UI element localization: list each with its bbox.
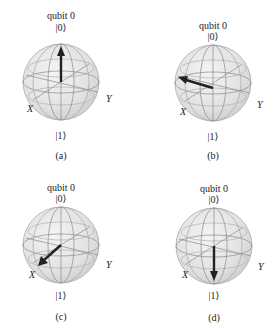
panel-caption: (c) xyxy=(55,312,66,322)
ket-zero-label: |0⟩ xyxy=(56,23,67,33)
bloch-sphere-a xyxy=(0,0,138,164)
ket-zero-label: |0⟩ xyxy=(209,195,220,205)
ket-one-label: |1⟩ xyxy=(209,291,220,301)
panel-title: qubit 0 xyxy=(200,184,228,194)
panel-title: qubit 0 xyxy=(47,183,75,193)
ket-zero-label: |0⟩ xyxy=(208,32,219,42)
y-axis-label: Y xyxy=(257,100,263,110)
panel-caption: (d) xyxy=(208,313,220,323)
bloch-panel-b: qubit 0 |0⟩ |1⟩ X Y (b) xyxy=(138,0,276,164)
bloch-panel-c: qubit 0 |0⟩ |1⟩ X Y (c) xyxy=(0,165,138,329)
sphere-wireframe xyxy=(175,45,251,121)
panel-caption: (a) xyxy=(55,151,66,161)
x-axis-label: X xyxy=(29,270,35,280)
panel-caption: (b) xyxy=(207,151,219,161)
ket-one-label: |1⟩ xyxy=(208,132,219,142)
ket-zero-label: |0⟩ xyxy=(56,194,67,204)
panel-title: qubit 0 xyxy=(199,21,227,31)
y-axis-label: Y xyxy=(106,260,112,270)
panel-title: qubit 0 xyxy=(47,11,75,21)
bloch-panel-d: qubit 0 |0⟩ |1⟩ X Y (d) xyxy=(138,165,276,329)
x-axis-label: X xyxy=(27,104,33,114)
ket-one-label: |1⟩ xyxy=(56,291,67,301)
y-axis-label: Y xyxy=(106,94,112,104)
y-axis-label: Y xyxy=(258,262,264,272)
ket-one-label: |1⟩ xyxy=(56,131,67,141)
x-axis-label: X xyxy=(182,270,188,280)
bloch-panel-a: qubit 0 |0⟩ |1⟩ X Y (a) xyxy=(0,0,138,164)
x-axis-label: X xyxy=(180,107,186,117)
